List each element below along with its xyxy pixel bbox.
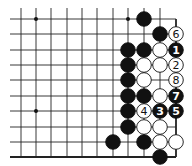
- white-stone: [169, 135, 184, 150]
- white-stone: 2: [169, 58, 184, 73]
- white-stone: [137, 58, 152, 73]
- white-stone: 6: [169, 27, 184, 42]
- black-stone: [153, 150, 168, 165]
- black-stone: 7: [169, 89, 184, 104]
- black-stone: 1: [169, 43, 184, 58]
- move-number: 7: [172, 90, 180, 103]
- black-stone: [121, 89, 136, 104]
- white-stone: [137, 73, 152, 88]
- white-stone: 8: [169, 73, 184, 88]
- move-number: 4: [141, 105, 148, 118]
- white-stone: [153, 43, 168, 58]
- black-stone: [137, 89, 152, 104]
- move-number: 8: [173, 74, 180, 87]
- white-stone: [153, 120, 168, 135]
- black-stone: [121, 73, 136, 88]
- stones: 61287435: [106, 12, 184, 165]
- move-number: 3: [156, 105, 164, 118]
- white-stone: [153, 135, 168, 150]
- black-stone: 3: [153, 104, 168, 119]
- white-stone: [153, 89, 168, 104]
- white-stone: 4: [137, 104, 152, 119]
- black-stone: [106, 135, 121, 150]
- move-number: 1: [172, 44, 180, 57]
- star-point-icon: [126, 17, 130, 21]
- black-stone: [121, 43, 136, 58]
- go-board-diagram: 61287435: [0, 0, 192, 166]
- move-number: 2: [173, 59, 180, 72]
- black-stone: [121, 104, 136, 119]
- black-stone: 5: [169, 104, 184, 119]
- black-stone: [137, 12, 152, 27]
- white-stone: [153, 58, 168, 73]
- black-stone: [137, 135, 152, 150]
- move-number: 5: [172, 105, 180, 118]
- star-point-icon: [34, 109, 38, 113]
- black-stone: [121, 58, 136, 73]
- black-stone: [153, 27, 168, 42]
- white-stone: [137, 120, 152, 135]
- star-point-icon: [34, 17, 38, 21]
- black-stone: [137, 43, 152, 58]
- move-number: 6: [173, 28, 180, 41]
- black-stone: [121, 120, 136, 135]
